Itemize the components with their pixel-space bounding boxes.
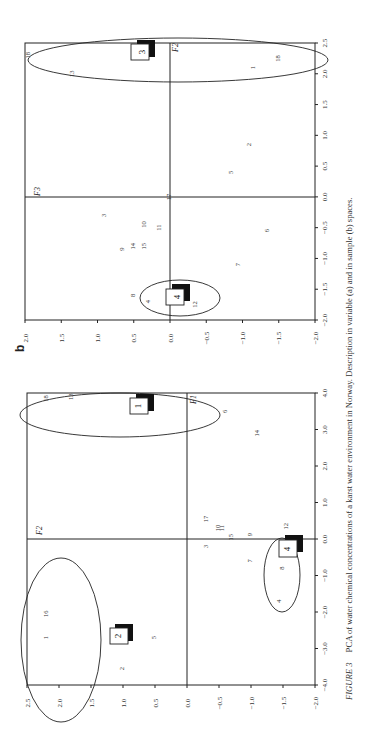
panel-b-tick-label: −1.5 xyxy=(321,282,329,295)
figure-caption-text: PCA of water chemical concentrations of … xyxy=(344,198,354,653)
panel-b-point-label: 12 xyxy=(191,301,198,308)
panel-a-point-label: 7 xyxy=(246,559,253,563)
panel-b-tick-label: −1.0 xyxy=(239,331,247,344)
panel-a-point-label: 6 xyxy=(221,409,228,413)
panel-b-point-label: 15 xyxy=(140,243,147,250)
panel-a-tick-label: 0.0 xyxy=(321,534,329,543)
panel-b-point-label: 9 xyxy=(118,248,125,251)
panel-b-point-label: 4 xyxy=(144,299,151,303)
panel-a-tick-label: −0.5 xyxy=(216,696,224,709)
panel-a-tick-label: −1.0 xyxy=(248,696,256,709)
panel-a: 2.52.01.51.00.50.0−0.5−1.0−1.5−2.0 −4.0−… xyxy=(20,388,329,722)
panel-a-group-2-marker: 2 xyxy=(110,624,133,644)
panel-a-point-label: 4 xyxy=(275,599,282,603)
panel-b-point-label: 1 xyxy=(249,66,256,69)
panel-a-tick-label: 3.0 xyxy=(321,425,329,434)
panel-b-point-label: 18 xyxy=(24,52,31,59)
panel-a-point-label: 14 xyxy=(253,429,260,436)
panel-a-point-label: 13 xyxy=(67,393,74,400)
panel-b-point-label: 3 xyxy=(100,214,107,217)
panel-a-point-label: 8 xyxy=(278,567,285,570)
pca-figure: 2.01.51.00.50.0−0.5−1.0−1.5−2.0 −2.0−1.5… xyxy=(0,0,365,745)
panel-b: 2.01.51.00.50.0−0.5−1.0−1.5−2.0 −2.0−1.5… xyxy=(22,38,330,344)
panel-a-tick-label: 1.0 xyxy=(321,498,329,507)
panel-b-f3-ticks: 2.01.51.00.50.0−0.5−1.0−1.5−2.0 xyxy=(22,320,320,344)
panel-b-points: 181318125173101114159678412 xyxy=(24,52,281,308)
panel-a-group-1-ellipse xyxy=(20,393,220,437)
panel-b-tick-label: −2.0 xyxy=(321,313,329,326)
panel-a-tick-label: −2.0 xyxy=(321,605,329,618)
panel-a-point-label: 5 xyxy=(150,636,157,639)
panel-b-tick-label: 1.0 xyxy=(94,333,102,342)
panel-b-tick-label: −1.5 xyxy=(275,331,283,344)
panel-b-tick-label: 1.5 xyxy=(58,333,66,342)
panel-b-point-label: 17 xyxy=(165,193,172,200)
panel-a-point-label: 3 xyxy=(202,545,209,548)
panel-a-tick-label: −1.0 xyxy=(321,569,329,582)
panel-b-point-label: 10 xyxy=(140,221,147,228)
panel-b-tick-label: 0.0 xyxy=(321,192,329,201)
panel-b-tick-label: 0.5 xyxy=(130,333,138,342)
panel-b-tick-label: 2.0 xyxy=(321,69,329,78)
figure-caption-label: FIGURE 3 xyxy=(344,663,354,701)
panel-b-point-label: 14 xyxy=(129,242,136,249)
panel-a-tick-label: 2.0 xyxy=(321,461,329,470)
panel-a-point-label: 12 xyxy=(282,523,289,530)
panel-b-tick-label: −0.5 xyxy=(321,221,329,234)
panel-b-tick-label: 2.0 xyxy=(22,333,30,342)
panel-b-point-label: 13 xyxy=(68,71,75,78)
panel-a-point-label: 16 xyxy=(42,610,49,617)
panel-b-point-label: 7 xyxy=(234,262,241,266)
panel-a-tick-label: 2.0 xyxy=(56,698,64,707)
panel-b-axis-label-f3: F3 xyxy=(33,187,42,197)
panel-b-f2-ticks: −2.0−1.5−1.0−0.50.00.51.01.52.02.5 xyxy=(315,38,329,326)
panel-a-tick-label: 0.5 xyxy=(152,698,160,707)
panel-a-group-1-label: 1 xyxy=(133,404,143,409)
panel-a-group-4-label: 4 xyxy=(282,546,292,551)
panel-a-point-label: 15 xyxy=(227,534,234,541)
panel-b-group-3-label: 3 xyxy=(137,49,147,54)
panel-b-tick-label: −2.0 xyxy=(312,331,320,344)
panel-b-point-label: 5 xyxy=(227,171,234,174)
panel-a-point-label: 1 xyxy=(42,636,49,639)
panel-b-point-label: 2 xyxy=(245,143,252,146)
panel-a-point-label: 17 xyxy=(202,515,209,522)
panel-b-tick-label: −0.5 xyxy=(203,331,211,344)
panel-b-point-label: 11 xyxy=(155,225,162,231)
panel-a-tick-label: −3.0 xyxy=(321,642,329,655)
panel-a-axis-label-f2: F2 xyxy=(35,526,44,536)
panel-b-axis-label-f2: F2 xyxy=(171,43,180,53)
panel-b-letter: b xyxy=(13,345,27,352)
panel-a-tick-label: −1.5 xyxy=(280,696,288,709)
panel-a-point-label: 2 xyxy=(118,667,125,670)
panel-a-group-2-label: 2 xyxy=(113,634,123,639)
panel-b-point-label: 8 xyxy=(129,294,136,297)
panel-a-f1-ticks: −4.0−3.0−2.0−1.00.01.02.03.04.0 xyxy=(315,388,329,691)
panel-a-tick-label: 2.5 xyxy=(24,698,32,707)
panel-a-tick-label: −2.0 xyxy=(312,696,320,709)
panel-a-f2-ticks: 2.52.01.51.00.50.0−0.5−1.0−1.5−2.0 xyxy=(24,685,320,709)
panel-a-tick-label: 1.0 xyxy=(120,698,128,707)
panel-b-point-label: 18 xyxy=(274,55,281,62)
panel-a-tick-label: 0.0 xyxy=(184,698,192,707)
panel-b-tick-label: 0.5 xyxy=(321,161,329,170)
panel-a-tick-label: 4.0 xyxy=(321,388,329,397)
figure-caption: FIGURE 3 PCA of water chemical concentra… xyxy=(344,198,354,701)
panel-b-tick-label: 1.5 xyxy=(321,100,329,109)
panel-a-point-label: 11 xyxy=(218,525,225,531)
panel-a-group-1-marker: 1 xyxy=(130,394,154,414)
panel-a-tick-label: −4.0 xyxy=(321,678,329,691)
panel-b-tick-label: 0.0 xyxy=(167,333,175,342)
panel-b-tick-label: 1.0 xyxy=(321,130,329,139)
panel-b-point-label: 6 xyxy=(263,228,270,232)
panel-a-point-label: 9 xyxy=(246,533,253,536)
panel-b-tick-label: 2.5 xyxy=(321,38,329,47)
panel-a-group-2-ellipse xyxy=(21,558,101,722)
panel-a-point-label: 18 xyxy=(42,395,49,402)
panel-b-group-4-label: 4 xyxy=(172,294,182,299)
panel-b-tick-label: −1.0 xyxy=(321,252,329,265)
